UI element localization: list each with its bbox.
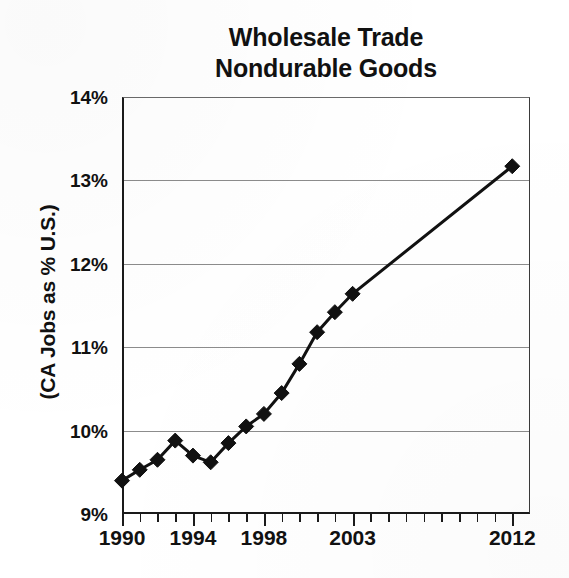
x-axis-tick (193, 514, 195, 526)
x-axis-ticks (122, 514, 530, 526)
x-axis-tick (122, 514, 124, 526)
chart-title: Wholesale Trade Nondurable Goods (120, 22, 532, 83)
x-axis-tick (441, 514, 443, 522)
plot-area (122, 97, 530, 514)
x-axis-tick (424, 514, 426, 522)
x-axis-tick (512, 514, 514, 526)
x-axis-tick (157, 514, 159, 522)
x-axis-tick (406, 514, 408, 522)
x-axis-tick (264, 514, 266, 526)
data-point-marker (292, 356, 307, 371)
y-axis-tick-labels: 14%13%12%11%10%9% (46, 97, 108, 514)
x-axis-tick (388, 514, 390, 522)
x-axis-tick (140, 514, 142, 522)
x-axis-tick (282, 514, 284, 522)
data-point-marker (115, 473, 130, 488)
chart-title-line-2: Nondurable Goods (120, 53, 532, 84)
x-axis-tick (477, 514, 479, 522)
x-axis-tick (353, 514, 355, 526)
y-axis-tick-label: 13% (46, 171, 108, 190)
chart-figure: Wholesale Trade Nondurable Goods (CA Job… (0, 0, 569, 578)
y-axis-tick-label: 12% (46, 255, 108, 274)
y-axis-tick-label: 11% (46, 338, 108, 357)
x-axis-tick (317, 514, 319, 522)
x-axis-tick (228, 514, 230, 522)
x-axis-tick-label: 1998 (219, 527, 309, 548)
x-axis-tick (459, 514, 461, 522)
x-axis-tick (211, 514, 213, 522)
data-series (122, 97, 530, 514)
series-line (122, 166, 512, 480)
x-axis-tick-label: 2003 (308, 527, 398, 548)
x-axis-tick (299, 514, 301, 522)
x-axis-tick-label: 2012 (467, 527, 557, 548)
x-axis-tick (495, 514, 497, 522)
x-axis-tick (370, 514, 372, 522)
y-axis-tick-label: 9% (46, 505, 108, 524)
x-axis-tick (175, 514, 177, 522)
y-axis-tick-label: 10% (46, 422, 108, 441)
x-axis-tick-labels: 19901994199820032012 (0, 527, 569, 561)
data-point-marker (132, 462, 147, 477)
x-axis-tick (335, 514, 337, 522)
x-axis-tick (246, 514, 248, 522)
chart-title-line-1: Wholesale Trade (120, 22, 532, 53)
y-axis-tick-label: 14% (46, 88, 108, 107)
